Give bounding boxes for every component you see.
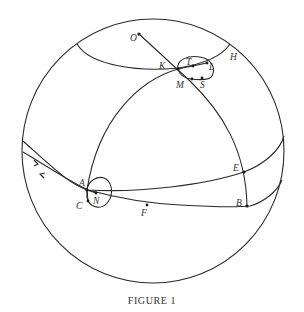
label-A: A	[78, 178, 85, 188]
point-N	[95, 192, 98, 195]
point-B	[245, 204, 248, 207]
label-C: C	[76, 201, 83, 211]
point-T	[192, 65, 195, 68]
point-E	[242, 170, 245, 173]
lower-band-line	[23, 152, 282, 207]
label-M: M	[175, 80, 185, 90]
label-S: S	[200, 80, 205, 90]
point-M	[191, 78, 194, 81]
point-O	[137, 32, 140, 35]
point-A	[85, 188, 88, 191]
label-H: H	[229, 52, 238, 62]
label-B: B	[236, 198, 242, 208]
figure-caption: FIGURE 1	[128, 295, 176, 306]
label-E: E	[232, 163, 239, 173]
celestial-sphere-diagram: O K T L H M S A N C F E B FIGURE 1	[0, 0, 304, 312]
point-L	[206, 62, 209, 65]
label-N: N	[92, 196, 100, 206]
great-circle-M-B	[190, 81, 247, 206]
point-S	[201, 77, 204, 80]
point-C	[87, 200, 90, 203]
label-L: L	[208, 62, 214, 72]
sphere-outline	[22, 19, 284, 283]
label-O: O	[130, 33, 137, 43]
point-F	[146, 204, 149, 207]
label-K: K	[158, 61, 166, 71]
label-T: T	[186, 57, 192, 67]
great-circle-K-A	[87, 69, 178, 190]
point-K	[176, 67, 179, 70]
arrow-left-icon	[40, 173, 45, 178]
label-F: F	[140, 208, 147, 218]
